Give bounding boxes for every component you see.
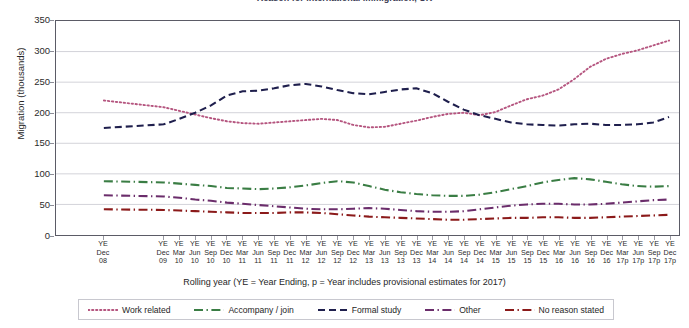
x-axis-tick-mark: [306, 236, 307, 240]
legend-item-accompany-join[interactable]: Accompany / join: [194, 305, 293, 315]
y-axis-tick-label: 0: [6, 231, 50, 241]
y-axis-ticks: 050100150200250300350: [0, 20, 50, 236]
x-axis-tick-mark: [464, 236, 465, 240]
y-axis-tick-mark: [50, 205, 54, 206]
legend-item-no-reason-stated[interactable]: No reason stated: [505, 305, 604, 315]
legend-swatch-no-reason-stated: [505, 306, 535, 314]
y-axis-tick-label: 350: [6, 15, 50, 25]
x-axis-tick-mark: [258, 236, 259, 240]
x-axis-tick-mark: [527, 236, 528, 240]
series-line-no-reason-stated: [104, 209, 669, 219]
legend-label: Accompany / join: [228, 305, 293, 315]
x-axis-tick-mark: [622, 236, 623, 240]
x-axis-tick-mark: [448, 236, 449, 240]
x-axis-tick-mark: [417, 236, 418, 240]
legend-label: Work related: [122, 305, 171, 315]
x-axis-tick-mark: [195, 236, 196, 240]
chart-title: Reason for international immigration, UK: [0, 0, 689, 4]
y-axis-tick-label: 150: [6, 138, 50, 148]
y-axis-tick-label: 50: [6, 200, 50, 210]
legend-swatch-accompany-join: [194, 306, 224, 314]
x-axis-tick-mark: [654, 236, 655, 240]
y-axis-tick-mark: [50, 236, 54, 237]
y-axis-tick-mark: [50, 143, 54, 144]
x-axis-tick-mark: [480, 236, 481, 240]
legend-swatch-work-related: [88, 306, 118, 314]
series-line-accompany-join: [104, 178, 669, 196]
x-axis-tick-mark: [274, 236, 275, 240]
x-axis-tick-mark: [401, 236, 402, 240]
x-axis-tick-mark: [512, 236, 513, 240]
y-axis-tick-label: 300: [6, 46, 50, 56]
x-axis-tick-mark: [242, 236, 243, 240]
x-axis-tick-mark: [607, 236, 608, 240]
x-axis-tick-mark: [337, 236, 338, 240]
x-axis-tick-mark: [290, 236, 291, 240]
series-line-formal-study: [104, 84, 669, 128]
legend-label: Other: [459, 305, 481, 315]
plot-area: [55, 20, 680, 236]
x-axis-tick-mark: [369, 236, 370, 240]
legend-swatch-other: [425, 306, 455, 314]
x-axis-labels: YEDec08YEDec09YEMar10YEJun10YESep10YEDec…: [55, 240, 680, 274]
line-chart: Reason for international immigration, UK…: [0, 0, 689, 328]
y-axis-tick-mark: [50, 82, 54, 83]
y-axis-tick-mark: [50, 20, 54, 21]
legend-label: No reason stated: [539, 305, 604, 315]
x-axis-tick-mark: [211, 236, 212, 240]
x-axis-tick-mark: [670, 236, 671, 240]
series-lines: [56, 21, 679, 235]
chart-legend: Work relatedAccompany / joinFormal study…: [78, 299, 614, 320]
legend-label: Formal study: [352, 305, 402, 315]
legend-swatch-formal-study: [318, 306, 348, 314]
x-axis-tick-mark: [638, 236, 639, 240]
y-axis-tick-mark: [50, 51, 54, 52]
x-axis-tick-mark: [103, 236, 104, 240]
x-axis-tick-mark: [432, 236, 433, 240]
legend-item-work-related[interactable]: Work related: [88, 305, 171, 315]
x-axis-tick-label: YEDec08: [90, 240, 116, 266]
series-line-other: [104, 195, 669, 212]
x-axis-tick-mark: [559, 236, 560, 240]
y-axis-tick-mark: [50, 113, 54, 114]
x-axis-tick-mark: [163, 236, 164, 240]
x-axis-tick-mark: [226, 236, 227, 240]
x-axis-tick-mark: [575, 236, 576, 240]
x-axis-tick-label: YEDec17p: [657, 240, 683, 266]
series-line-work-related: [104, 41, 669, 128]
x-axis-tick-mark: [353, 236, 354, 240]
x-axis-tick-mark: [543, 236, 544, 240]
y-axis-tick-label: 200: [6, 108, 50, 118]
x-axis-tick-mark: [179, 236, 180, 240]
y-axis-tick-mark: [50, 174, 54, 175]
x-axis-tick-mark: [321, 236, 322, 240]
y-axis-tick-label: 100: [6, 169, 50, 179]
legend-item-formal-study[interactable]: Formal study: [318, 305, 402, 315]
x-axis-title: Rolling year (YE = Year Ending, p = Year…: [0, 277, 689, 287]
x-axis-tick-mark: [385, 236, 386, 240]
x-axis-tick-mark: [496, 236, 497, 240]
x-axis-tick-mark: [591, 236, 592, 240]
legend-item-other[interactable]: Other: [425, 305, 481, 315]
y-axis-tick-label: 250: [6, 77, 50, 87]
